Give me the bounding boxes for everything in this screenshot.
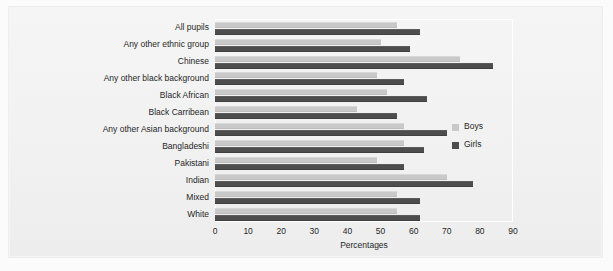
bar-boys [215,123,404,129]
bar-girls [215,181,473,187]
bar-boys [215,191,397,197]
bar-group [215,70,513,87]
legend-entry: Girls [452,139,512,157]
bar-group [215,171,513,188]
bar-group [215,188,513,205]
x-axis-tick-label: 60 [409,226,418,236]
bar-group [215,87,513,104]
x-axis-tick-label: 90 [508,226,517,236]
bar-boys [215,39,381,45]
bar-group [215,104,513,121]
bar-boys [215,140,404,146]
y-axis-label: Pakistani [0,158,209,168]
chart-legend: BoysGirls [452,121,512,157]
y-axis-label: White [0,209,209,219]
bar-group [215,205,513,222]
bar-boys [215,174,447,180]
bar-girls [215,79,404,85]
legend-swatch-boys [452,124,459,131]
x-axis-tick-label: 80 [475,226,484,236]
legend-swatch-girls [452,142,459,149]
legend-entry: Boys [452,121,512,139]
bar-boys [215,106,357,112]
x-axis-tick-label: 30 [310,226,319,236]
y-axis-label: Indian [0,175,209,185]
y-axis-label: All pupils [0,22,209,32]
x-axis-tick-label: 70 [442,226,451,236]
y-axis-label: Bangladeshi [0,141,209,151]
bar-group [215,36,513,53]
y-axis-label: Any other Asian background [0,124,209,134]
bar-group [215,19,513,36]
y-axis-label: Any other ethnic group [0,39,209,49]
y-axis-label: Mixed [0,192,209,202]
x-axis-tick-label: 0 [213,226,218,236]
y-axis-label: Black African [0,90,209,100]
y-axis-label: Chinese [0,56,209,66]
figure-container: All pupilsAny other ethnic groupChineseA… [0,0,613,271]
bar-girls [215,29,420,35]
bar-boys [215,72,377,78]
x-axis-tick-label: 50 [376,226,385,236]
bar-girls [215,147,424,153]
x-axis-tick-label: 40 [343,226,352,236]
bar-boys [215,89,387,95]
bar-girls [215,96,427,102]
y-axis-category-labels: All pupilsAny other ethnic groupChineseA… [0,19,209,222]
bar-boys [215,208,397,214]
y-axis-label: Any other black background [0,73,209,83]
bar-group [215,53,513,70]
x-axis-tick-label: 20 [276,226,285,236]
bar-girls [215,63,493,69]
bar-boys [215,22,397,28]
bar-girls [215,198,420,204]
bar-boys [215,56,460,62]
bar-girls [215,164,404,170]
legend-label-boys: Boys [464,121,483,131]
bar-boys [215,157,377,163]
x-axis-tick-label: 10 [243,226,252,236]
bar-girls [215,113,397,119]
bar-girls [215,215,420,221]
bar-chart: All pupilsAny other ethnic groupChineseA… [0,0,613,271]
y-axis-label: Black Carribean [0,107,209,117]
x-axis-title: Percentages [215,240,513,250]
bar-girls [215,130,447,136]
legend-label-girls: Girls [464,139,481,149]
bar-girls [215,46,410,52]
